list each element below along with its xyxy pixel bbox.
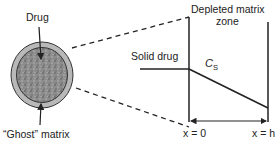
- x0-label: x = 0: [183, 128, 206, 139]
- cs-label: CS: [205, 58, 218, 69]
- xh-label: x = h: [252, 128, 275, 139]
- concentration-gradient: [189, 69, 268, 108]
- matrix-particle: [11, 42, 73, 108]
- projection-line-top: [72, 17, 189, 48]
- depleted-zone-label-line2: zone: [216, 16, 239, 27]
- ghost-matrix-label: “Ghost” matrix: [3, 129, 70, 140]
- projection-line-bottom: [76, 88, 189, 127]
- drug-core: [17, 48, 68, 103]
- cs-main: C: [205, 57, 213, 69]
- solid-drug-label: Solid drug: [131, 51, 178, 62]
- drug-label: Drug: [26, 12, 49, 23]
- depleted-zone-label-line1: Depleted matrix: [191, 4, 265, 15]
- cs-subscript: S: [213, 63, 218, 72]
